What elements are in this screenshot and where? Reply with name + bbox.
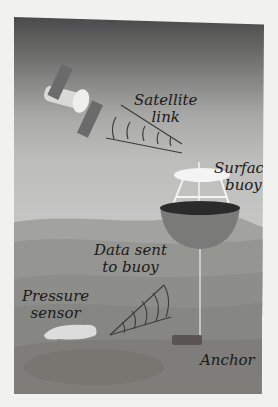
data-sent-label-line1: Data sent: [94, 242, 167, 259]
anchor-label-text: Anchor: [200, 352, 255, 369]
data-sent-label: Data sent to buoy: [94, 242, 167, 276]
satellite-icon: [43, 64, 103, 138]
surface-buoy-label-line2: buoy: [214, 177, 264, 194]
surface-buoy-label: Surface buoy: [214, 160, 264, 194]
surface-buoy-label-line1: Surface: [214, 160, 264, 177]
data-sent-label-line2: to buoy: [94, 259, 167, 276]
satellite-link-label-line1: Satellite: [134, 92, 197, 109]
scene-svg: [14, 17, 264, 394]
satellite-link-label: Satellite link: [134, 92, 197, 126]
anchor-icon: [172, 335, 202, 345]
pressure-sensor-label-line2: sensor: [22, 305, 89, 322]
pressure-sensor-label: Pressure sensor: [22, 288, 89, 322]
pressure-sensor-label-line1: Pressure: [22, 288, 89, 305]
anchor-label: Anchor: [200, 352, 255, 369]
seafloor-mound: [24, 349, 164, 385]
diagram-panel: Satellite link Surface buoy Data sent to…: [14, 17, 264, 394]
satellite-link-label-line2: link: [134, 109, 197, 126]
